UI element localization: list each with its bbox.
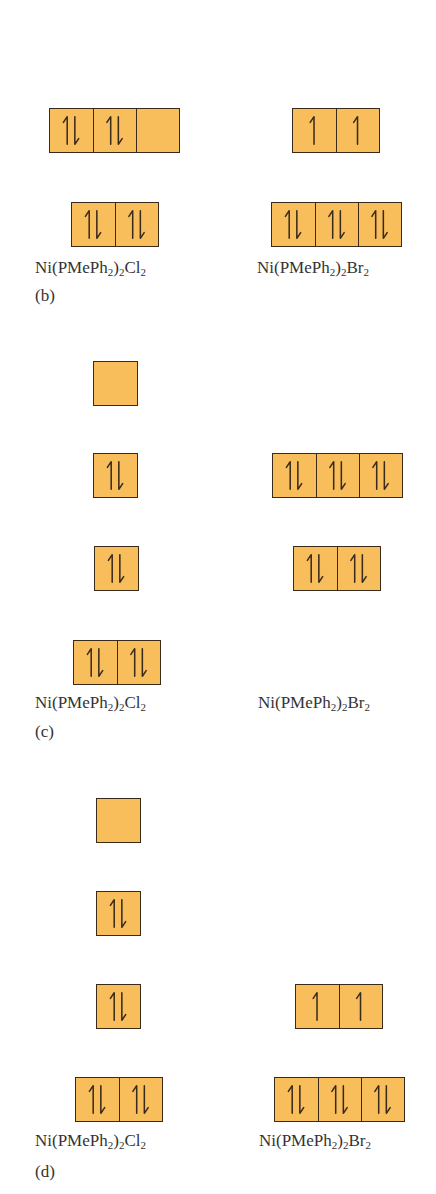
paired-spin-arrows-icon	[275, 1078, 318, 1121]
empty-orbital-icon	[94, 362, 137, 405]
paired-spin-arrows-icon	[72, 203, 115, 246]
orbital-box-empty	[97, 799, 140, 842]
paired-spin-arrows-icon	[97, 985, 140, 1028]
orbital-level-d	[96, 891, 141, 936]
orbital-box-paired	[97, 985, 140, 1028]
paired-spin-arrows-icon	[316, 203, 358, 246]
paired-spin-arrows-icon	[338, 547, 380, 590]
paired-spin-arrows-icon	[116, 203, 158, 246]
paired-spin-arrows-icon	[94, 109, 136, 152]
orbital-box-paired	[337, 547, 380, 590]
paired-spin-arrows-icon	[95, 547, 138, 590]
orbital-box-paired	[115, 203, 158, 246]
orbital-box-paired	[272, 203, 315, 246]
orbital-box-paired	[76, 1078, 119, 1121]
compound-label-cl: Ni(PMePh2)2Cl2	[35, 693, 146, 713]
orbital-level-c	[94, 546, 139, 591]
orbital-level-c	[73, 640, 161, 685]
orbital-level-d	[295, 984, 383, 1029]
orbital-box-paired	[50, 109, 93, 152]
orbital-box-paired	[294, 547, 337, 590]
part-label-d: (d)	[35, 1162, 55, 1182]
orbital-level-d	[96, 984, 141, 1029]
orbital-box-paired	[359, 454, 402, 497]
compound-label-br: Ni(PMePh2)2Br2	[259, 1131, 371, 1151]
paired-spin-arrows-icon	[120, 1078, 162, 1121]
orbital-level-d	[75, 1077, 163, 1122]
compound-label-cl: Ni(PMePh2)2Cl2	[35, 258, 146, 278]
paired-spin-arrows-icon	[97, 892, 140, 935]
orbital-box-paired	[315, 203, 358, 246]
compound-label-br: Ni(PMePh2)2Br2	[257, 258, 369, 278]
orbital-box-paired	[72, 203, 115, 246]
orbital-level-c	[272, 453, 403, 498]
orbital-box-paired	[316, 454, 359, 497]
paired-spin-arrows-icon	[272, 203, 315, 246]
orbital-level-c	[93, 361, 138, 406]
orbital-box-up	[293, 109, 336, 152]
paired-spin-arrows-icon	[76, 1078, 119, 1121]
part-label-c: (c)	[35, 722, 54, 742]
orbital-box-paired	[318, 1078, 361, 1121]
orbital-box-up	[339, 985, 382, 1028]
orbital-box-empty	[94, 362, 137, 405]
orbital-box-empty	[136, 109, 179, 152]
compound-label-br: Ni(PMePh2)2Br2	[258, 693, 370, 713]
orbital-box-paired	[74, 641, 117, 684]
orbital-box-paired	[97, 892, 140, 935]
orbital-box-paired	[273, 454, 316, 497]
spin-up-arrow-icon	[296, 985, 339, 1028]
paired-spin-arrows-icon	[362, 1078, 404, 1121]
orbital-level-c	[293, 546, 381, 591]
paired-spin-arrows-icon	[317, 454, 359, 497]
orbital-box-paired	[361, 1078, 404, 1121]
orbital-level-b	[271, 202, 402, 247]
orbital-box-up	[336, 109, 379, 152]
paired-spin-arrows-icon	[74, 641, 117, 684]
orbital-level-d	[96, 798, 141, 843]
paired-spin-arrows-icon	[94, 454, 137, 497]
orbital-level-b	[71, 202, 159, 247]
paired-spin-arrows-icon	[319, 1078, 361, 1121]
orbital-box-paired	[119, 1078, 162, 1121]
orbital-box-up	[296, 985, 339, 1028]
compound-label-cl: Ni(PMePh2)2Cl2	[35, 1131, 146, 1151]
orbital-box-paired	[117, 641, 160, 684]
empty-orbital-icon	[137, 109, 179, 152]
empty-orbital-icon	[97, 799, 140, 842]
paired-spin-arrows-icon	[118, 641, 160, 684]
orbital-box-paired	[358, 203, 401, 246]
orbital-box-paired	[95, 547, 138, 590]
orbital-box-paired	[93, 109, 136, 152]
orbital-level-c	[93, 453, 138, 498]
orbital-level-b	[292, 108, 380, 153]
orbital-box-paired	[275, 1078, 318, 1121]
part-label-b: (b)	[35, 286, 55, 306]
paired-spin-arrows-icon	[360, 454, 402, 497]
spin-up-arrow-icon	[337, 109, 379, 152]
paired-spin-arrows-icon	[50, 109, 93, 152]
orbital-level-b	[49, 108, 180, 153]
paired-spin-arrows-icon	[359, 203, 401, 246]
paired-spin-arrows-icon	[273, 454, 316, 497]
orbital-level-d	[274, 1077, 405, 1122]
spin-up-arrow-icon	[340, 985, 382, 1028]
spin-up-arrow-icon	[293, 109, 336, 152]
paired-spin-arrows-icon	[294, 547, 337, 590]
orbital-box-paired	[94, 454, 137, 497]
